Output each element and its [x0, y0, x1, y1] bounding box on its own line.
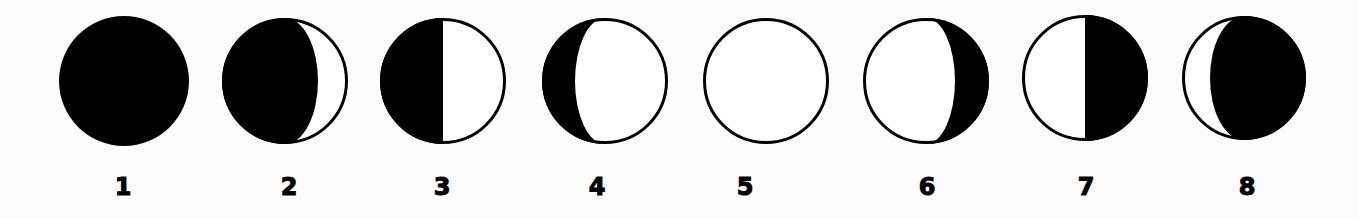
moon-phase-3-first-quarter-icon: [380, 18, 506, 144]
moon-phases-graphic: [0, 0, 1358, 218]
phase-label-4: 4: [577, 173, 617, 201]
moon-phase-8-waning-crescent-icon: [1182, 16, 1306, 140]
moon-phase-1-new-moon-icon: [59, 16, 189, 146]
moon-phase-6-waning-gibbous-icon: [863, 18, 989, 144]
moon-phase-2-waxing-crescent-icon: [222, 18, 348, 144]
phase-label-6: 6: [907, 173, 947, 201]
moon-phase-7-last-quarter-icon: [1022, 15, 1148, 141]
moon-phase-4-waxing-gibbous-icon: [542, 18, 668, 144]
phase-label-3: 3: [422, 173, 462, 201]
phase-label-8: 8: [1227, 173, 1267, 201]
phase-label-2: 2: [269, 173, 309, 201]
phase-label-7: 7: [1066, 173, 1106, 201]
moon-phase-5-full-moon-icon: [705, 20, 828, 143]
phase-label-1: 1: [103, 173, 143, 201]
phase-label-5: 5: [725, 173, 765, 201]
moon-phases-diagram: 1 2 3 4 5 6 7 8: [0, 0, 1358, 218]
